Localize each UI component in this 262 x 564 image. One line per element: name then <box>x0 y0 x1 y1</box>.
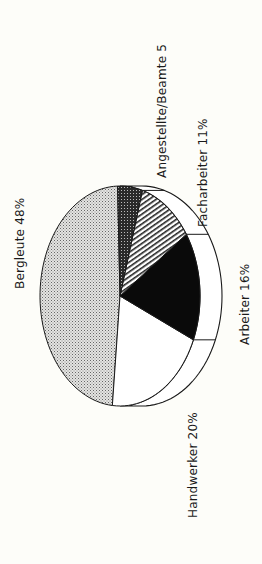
slice-label-bergleute: Bergleute 48% <box>13 198 27 289</box>
pie-chart <box>0 0 262 564</box>
slice-label-handwerker: Handwerker 20% <box>186 412 200 518</box>
slice-label-facharbeiter: Facharbeiter 11% <box>196 118 210 227</box>
pie-slice-bergleute <box>40 186 120 405</box>
slice-label-arbeiter: Arbeiter 16% <box>238 264 252 345</box>
slice-label-angestellte-beamte: Angestellte/Beamte 5 <box>155 44 169 178</box>
pie-face <box>40 186 200 406</box>
